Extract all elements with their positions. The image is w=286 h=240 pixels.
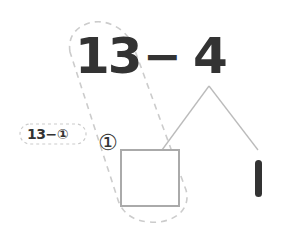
hint-label: 13−①	[27, 125, 68, 143]
tree-branch-left	[162, 86, 209, 150]
operator: −	[143, 26, 182, 86]
answer-box[interactable]	[121, 150, 179, 206]
tree-branch-right	[209, 86, 258, 150]
subtrahend: 4	[193, 26, 228, 86]
left-part-marker: ①	[98, 130, 118, 156]
right-part-one	[255, 160, 262, 197]
minuend: 13	[75, 26, 141, 86]
